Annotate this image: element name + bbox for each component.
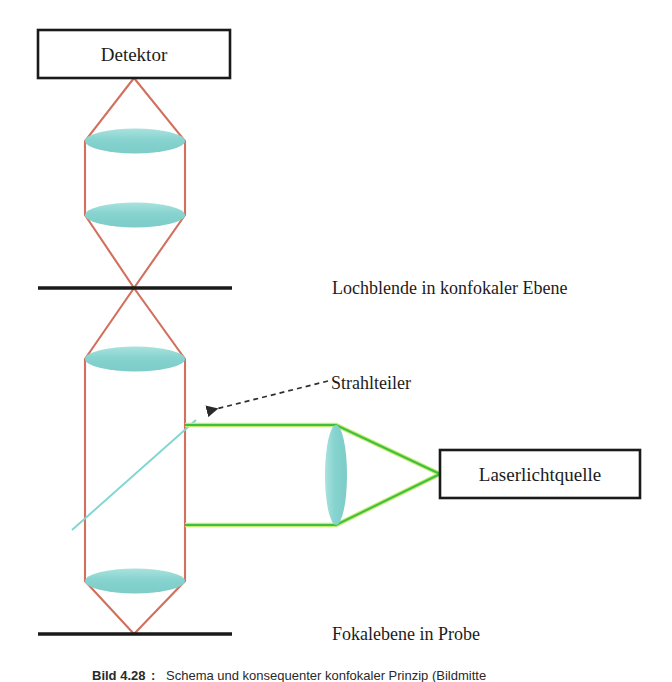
laser-source-box[interactable]: Laserlichtquelle — [440, 450, 640, 498]
beamsplitter-leader-line — [208, 381, 328, 411]
pinhole-plane-label: Lochblende in konfokaler Ebene — [332, 278, 567, 298]
figure-caption-separator: : — [151, 668, 155, 682]
laser-source-box-label: Laserlichtquelle — [479, 464, 601, 485]
illumination-beam-path — [185, 425, 440, 525]
illumination-beam-lower-ray-glow — [185, 474, 440, 525]
detection-lens-upper-icon — [85, 129, 185, 154]
illumination-beam-upper-ray — [185, 425, 440, 474]
confocal-principle-diagram: Detektor Laserlichtquelle Lochblende in … — [0, 0, 672, 682]
beamsplitter-line — [72, 420, 196, 530]
objective-lens-upper-icon — [85, 347, 185, 372]
focal-plane-label: Fokalebene in Probe — [332, 624, 480, 644]
beamsplitter-label: Strahlteiler — [331, 373, 411, 393]
figure-caption-text: Schema und konsequenter konfokaler Prinz… — [166, 668, 486, 682]
illumination-beam-lower-ray — [185, 474, 440, 525]
detector-box-label: Detektor — [101, 44, 168, 65]
detection-lens-lower-icon — [85, 203, 185, 228]
beamsplitter-callout: Strahlteiler — [208, 373, 411, 411]
collimating-lens-icon — [325, 425, 347, 525]
figure-container: Detektor Laserlichtquelle Lochblende in … — [0, 0, 672, 682]
detector-box[interactable]: Detektor — [38, 30, 230, 78]
objective-lens-lower-icon — [85, 569, 185, 594]
illumination-beam-upper-ray-glow — [185, 425, 440, 474]
figure-caption: Bild 4.28 : Schema und konsequenter konf… — [92, 668, 486, 682]
figure-caption-number: Bild 4.28 — [92, 668, 145, 682]
